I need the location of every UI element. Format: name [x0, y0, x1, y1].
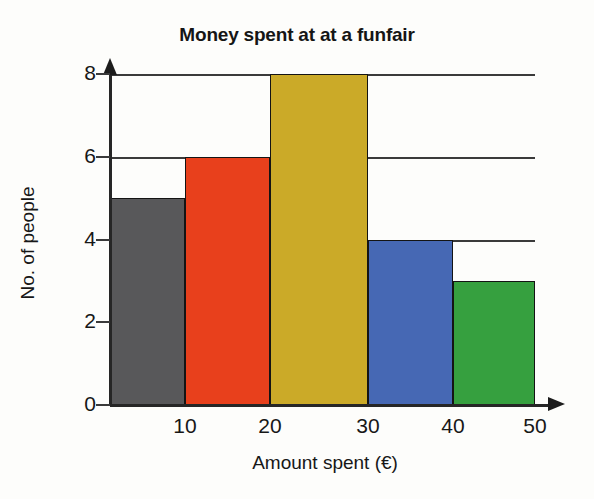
x-tick-label: 50 [505, 414, 565, 438]
bar [110, 198, 185, 405]
x-axis-arrow-icon [548, 397, 565, 411]
bar [185, 157, 270, 405]
y-tick-mark [96, 321, 110, 323]
y-tick-mark [96, 156, 110, 158]
x-tick-label: 30 [338, 414, 398, 438]
x-tick-label: 40 [423, 414, 483, 438]
x-axis-title: Amount spent (€) [110, 452, 540, 474]
y-tick-label: 2 [66, 309, 96, 333]
y-tick-label: 4 [66, 227, 96, 251]
y-tick-mark [96, 73, 110, 75]
y-tick-mark [96, 239, 110, 241]
chart-page: Money spent at at a funfair 02468 102030… [0, 0, 594, 499]
y-tick-mark [96, 404, 110, 406]
y-tick-label: 8 [66, 61, 96, 85]
y-tick-label: 0 [66, 392, 96, 416]
bar [270, 74, 368, 405]
y-axis-title: No. of people [17, 163, 39, 323]
bar [368, 240, 453, 406]
x-tick-label: 10 [155, 414, 215, 438]
y-tick-label: 6 [66, 144, 96, 168]
bar [453, 281, 535, 405]
x-tick-label: 20 [240, 414, 300, 438]
x-axis-line [110, 404, 552, 407]
plot-area: 02468 1020304050 No. of people Amount sp… [0, 0, 594, 499]
